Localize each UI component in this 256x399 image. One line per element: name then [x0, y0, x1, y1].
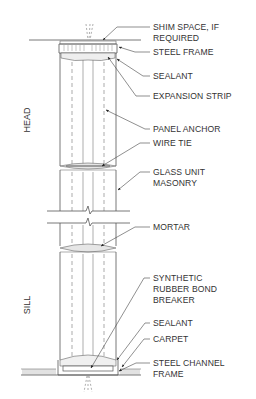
- leader-lines: [91, 27, 150, 371]
- mortar-joint: [60, 244, 116, 252]
- callout-shim-space-line1: SHIM SPACE, IF: [153, 22, 219, 32]
- callout-sealant-top: SEALANT: [153, 71, 194, 81]
- callout-carpet: CARPET: [153, 334, 189, 344]
- middle-glass-block: [60, 170, 116, 211]
- upper-glass-block: [60, 53, 116, 166]
- callout-sealant-bottom: SEALANT: [153, 318, 194, 328]
- callout-panel-anchor: PANEL ANCHOR: [153, 124, 221, 134]
- callout-bond-breaker-line1: SYNTHETIC: [153, 273, 203, 283]
- callout-glass-unit-masonry-line2: MASONRY: [153, 178, 197, 188]
- head-structure: [29, 24, 141, 40]
- head-label: HEAD: [22, 107, 32, 133]
- callout-steel-channel-frame-line2: FRAME: [153, 369, 184, 379]
- callout-shim-space-line2: REQUIRED: [153, 33, 199, 43]
- callout-wire-tie: WIRE TIE: [153, 138, 192, 148]
- callout-labels: SHIM SPACE, IF REQUIRED STEEL FRAME SEAL…: [153, 22, 232, 379]
- callout-expansion-strip: EXPANSION STRIP: [153, 91, 232, 101]
- wire-tie-joint: [60, 163, 116, 170]
- callout-steel-channel-frame-line1: STEEL CHANNEL: [153, 358, 225, 368]
- sill-label: SILL: [22, 296, 32, 315]
- break-lines: [47, 206, 130, 226]
- callout-glass-unit-masonry-line1: GLASS UNIT: [153, 167, 206, 177]
- callout-steel-frame: STEEL FRAME: [153, 47, 214, 57]
- callout-mortar: MORTAR: [153, 222, 190, 232]
- glass-block-section-diagram: HEAD SILL: [0, 0, 256, 399]
- callout-bond-breaker-line2: RUBBER BOND: [153, 284, 217, 294]
- callout-bond-breaker-line3: BREAKER: [153, 295, 195, 305]
- lower-glass-block: [60, 252, 116, 360]
- sill-structure: [21, 355, 141, 392]
